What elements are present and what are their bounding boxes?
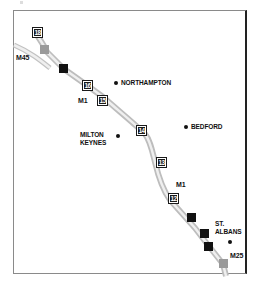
town-dot-bedford	[184, 125, 188, 129]
junction-18[interactable]: 18	[32, 27, 43, 38]
town-label-milton-keynes: MILTON KEYNES	[80, 131, 106, 147]
road-label-m45: M45	[16, 54, 29, 62]
service-area-marker	[204, 242, 213, 251]
town-dot-milton-keynes	[116, 134, 120, 138]
junction-12[interactable]: 12	[168, 193, 179, 204]
town-label-northampton: NORTHAMPTON	[121, 79, 171, 87]
town-label-line: MILTON	[80, 131, 106, 139]
town-label-st-albans: ST. ALBANS	[215, 220, 241, 236]
road-label-m25: M25	[230, 252, 243, 260]
town-dot-northampton	[114, 81, 118, 85]
town-label-line: ST.	[215, 220, 241, 228]
junction-14[interactable]: 14	[136, 125, 147, 136]
road-label-m1: M1	[78, 97, 88, 105]
junction-15[interactable]: 15	[97, 95, 108, 106]
m45-interchange-marker	[40, 45, 49, 54]
junction-13[interactable]: 13	[156, 157, 167, 168]
m25-interchange-marker	[219, 259, 228, 268]
service-area-marker	[59, 64, 68, 73]
junction-number: 14	[137, 126, 146, 135]
junction-number: 15	[98, 96, 107, 105]
junction-number: 13	[157, 158, 166, 167]
road-label-m1: M1	[176, 181, 186, 189]
town-label-bedford: BEDFORD	[191, 123, 222, 131]
town-label-line: ALBANS	[215, 228, 241, 236]
junction-number: 18	[33, 28, 42, 37]
junction-number: 12	[169, 194, 178, 203]
service-area-marker	[187, 213, 196, 222]
town-dot-st-albans	[228, 240, 232, 244]
town-label-line: KEYNES	[80, 139, 106, 147]
junction-number: 16	[83, 81, 92, 90]
map-canvas	[0, 0, 257, 286]
service-area-marker	[200, 229, 209, 238]
junction-16[interactable]: 16	[82, 80, 93, 91]
